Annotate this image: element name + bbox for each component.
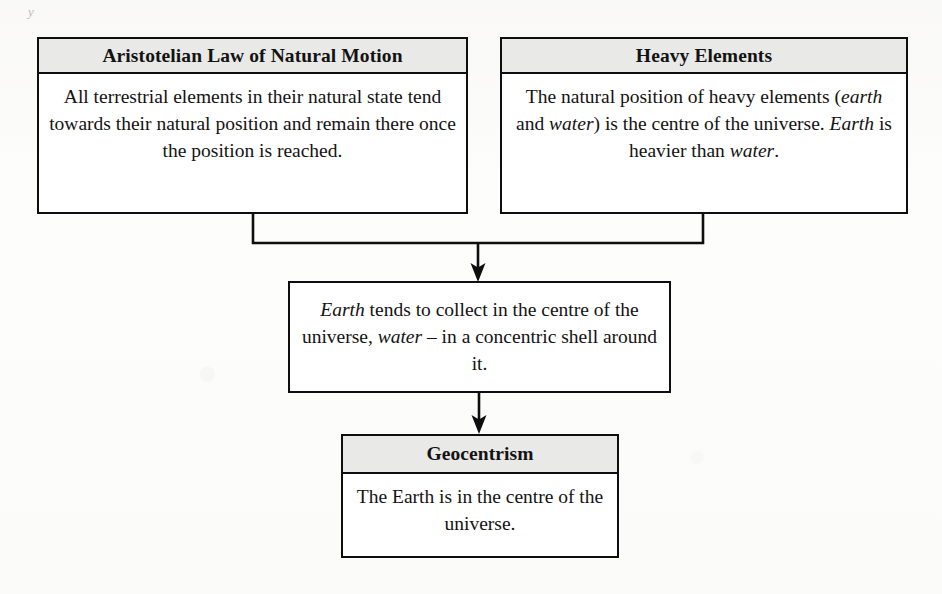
edge-heavy-to-merge (478, 214, 703, 243)
diagram-page: y Aristotelian Law of Natural Motion All… (0, 0, 942, 594)
node-earth-collects-body: Earth tends to collect in the centre of … (290, 283, 669, 385)
node-heavy-elements-body: The natural position of heavy elements (… (502, 74, 906, 172)
edge-aristotelian-to-merge (253, 214, 478, 243)
node-earth-collects: Earth tends to collect in the centre of … (288, 281, 671, 393)
node-geocentrism-body: The Earth is in the centre of the univer… (343, 474, 617, 545)
node-heavy-elements-title: Heavy Elements (502, 39, 906, 74)
node-heavy-elements: Heavy Elements The natural position of h… (500, 37, 908, 214)
node-aristotelian-law-body: All terrestrial elements in their natura… (39, 74, 466, 172)
node-geocentrism-title: Geocentrism (343, 436, 617, 474)
node-geocentrism: Geocentrism The Earth is in the centre o… (341, 434, 619, 558)
node-aristotelian-law: Aristotelian Law of Natural Motion All t… (37, 37, 468, 214)
node-aristotelian-law-title: Aristotelian Law of Natural Motion (39, 39, 466, 74)
